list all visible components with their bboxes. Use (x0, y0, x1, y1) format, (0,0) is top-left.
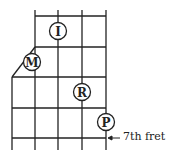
finger-label-middle: M (25, 56, 38, 70)
finger-marker-pinky: P (98, 114, 115, 131)
fret-label: 7th fret (123, 130, 165, 143)
finger-marker-ring: R (74, 84, 91, 101)
finger-marker-index: I (50, 23, 67, 40)
finger-marker-middle: M (24, 54, 41, 71)
arrow-icon (108, 136, 120, 140)
finger-label-ring: R (77, 86, 88, 100)
finger-label-pinky: P (101, 116, 110, 130)
finger-label-index: I (55, 25, 61, 39)
fret-annotation: 7th fret (123, 130, 165, 143)
